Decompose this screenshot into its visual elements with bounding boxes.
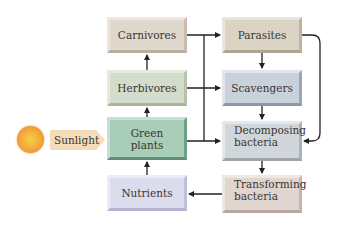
- node-parasites: Parasites: [222, 17, 302, 53]
- node-label-line2: plants: [131, 139, 164, 151]
- sunlight-label: Sunlight: [54, 128, 99, 152]
- node-label-line1: Decomposing: [234, 124, 306, 136]
- node-label: Scavengers: [231, 82, 293, 94]
- node-scavengers: Scavengers: [222, 70, 302, 106]
- node-label-line1: Green: [131, 127, 164, 139]
- node-nutrients: Nutrients: [107, 175, 187, 211]
- sun-icon: [17, 126, 44, 153]
- node-label-line1: Transforming: [234, 178, 306, 190]
- node-label: Parasites: [238, 29, 287, 41]
- node-label: Carnivores: [118, 29, 176, 41]
- node-label: Herbivores: [117, 82, 176, 94]
- node-carnivores: Carnivores: [107, 17, 187, 53]
- node-green-plants: Green plants: [107, 117, 187, 160]
- node-label: Nutrients: [121, 187, 172, 199]
- node-herbivores: Herbivores: [107, 70, 187, 106]
- node-transforming-bacteria: Transforming bacteria: [222, 175, 302, 213]
- node-label-line2: bacteria: [234, 136, 278, 148]
- node-label-line2: bacteria: [234, 190, 278, 202]
- node-decomposing-bacteria: Decomposing bacteria: [222, 121, 302, 161]
